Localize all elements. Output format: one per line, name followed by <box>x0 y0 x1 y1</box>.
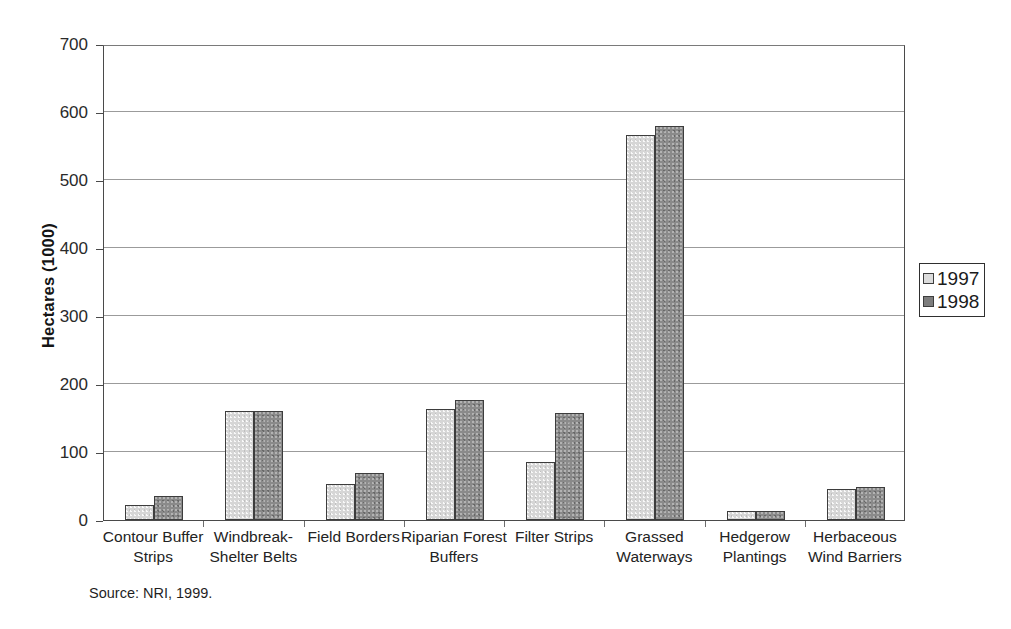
legend-label-1997: 1997 <box>937 269 979 288</box>
bar-1997-5 <box>526 462 555 520</box>
legend-entry-1998: 1998 <box>923 290 979 313</box>
y-tick-mark-700 <box>96 45 103 46</box>
light-gray-swatch-icon <box>923 273 934 284</box>
y-tick-label-100: 100 <box>28 443 88 463</box>
y-tick-mark-0 <box>96 521 103 522</box>
gridline-600 <box>104 111 904 112</box>
chart-legend: 1997 1998 <box>919 263 985 317</box>
y-tick-label-500: 500 <box>28 171 88 191</box>
y-tick-mark-600 <box>96 113 103 114</box>
y-tick-label-700: 700 <box>28 35 88 55</box>
bar-1997-1 <box>125 505 154 520</box>
gridline-400 <box>104 247 904 248</box>
bar-1997-4 <box>426 409 455 520</box>
plot-area <box>103 45 905 521</box>
y-tick-label-400: 400 <box>28 239 88 259</box>
bar-1998-4 <box>455 400 484 520</box>
y-tick-mark-500 <box>96 181 103 182</box>
y-tick-label-0: 0 <box>28 511 88 531</box>
y-tick-mark-200 <box>96 385 103 386</box>
bar-1998-1 <box>154 496 183 520</box>
dark-gray-swatch-icon <box>923 296 934 307</box>
gridline-100 <box>104 451 904 452</box>
category-label-8: Herbaceous Wind Barriers <box>791 527 919 567</box>
bar-1998-3 <box>355 473 384 520</box>
y-tick-mark-400 <box>96 249 103 250</box>
gridline-500 <box>104 179 904 180</box>
bar-1998-7 <box>756 511 785 520</box>
bar-1998-5 <box>555 413 584 520</box>
source-note: Source: NRI, 1999. <box>89 585 212 601</box>
bar-1998-2 <box>254 411 283 520</box>
bar-chart-figure: Hectares (1000) 0100200300400500600700 C… <box>0 0 1011 629</box>
bar-1997-3 <box>326 484 355 520</box>
legend-label-1998: 1998 <box>937 292 979 311</box>
bar-1997-7 <box>727 511 756 520</box>
gridline-300 <box>104 315 904 316</box>
bar-1997-8 <box>827 489 856 520</box>
y-tick-label-300: 300 <box>28 307 88 327</box>
y-tick-label-200: 200 <box>28 375 88 395</box>
legend-entry-1997: 1997 <box>923 267 979 290</box>
bar-1998-8 <box>856 487 885 520</box>
y-tick-label-600: 600 <box>28 103 88 123</box>
bar-1997-6 <box>626 135 655 520</box>
y-tick-mark-300 <box>96 317 103 318</box>
y-tick-mark-100 <box>96 453 103 454</box>
bar-1997-2 <box>225 411 254 520</box>
bar-1998-6 <box>655 126 684 520</box>
gridline-200 <box>104 383 904 384</box>
y-axis-tick-labels: 0100200300400500600700 <box>26 0 88 629</box>
